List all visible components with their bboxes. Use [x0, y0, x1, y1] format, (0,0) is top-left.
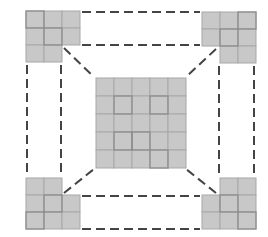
grid-cell [150, 78, 168, 96]
block-cell [238, 178, 256, 195]
grid-cell [168, 96, 186, 114]
grid-cell [96, 114, 114, 132]
block-cell [44, 195, 62, 212]
block-cell [202, 12, 220, 29]
block-cell [44, 178, 62, 195]
grid-cell [96, 132, 114, 150]
corner-block-top-left [26, 11, 80, 62]
grid-cell [132, 132, 150, 150]
grid-cell [150, 96, 168, 114]
corner-block-bottom-right [202, 178, 256, 229]
grid-cell [96, 150, 114, 168]
dashed-line-diag-bottom-left [64, 169, 94, 193]
grid-diagram [0, 0, 268, 237]
grid-cell [114, 96, 132, 114]
block-cell [44, 28, 62, 45]
block-cell [62, 11, 80, 28]
grid-cell [168, 150, 186, 168]
block-cell [62, 195, 80, 212]
block-cell [238, 29, 256, 46]
grid-cell [114, 132, 132, 150]
grid-cell [114, 150, 132, 168]
block-cell [44, 45, 62, 62]
block-cell [238, 12, 256, 29]
block-cell [220, 178, 238, 195]
grid-cell [132, 114, 150, 132]
block-cell [44, 11, 62, 28]
block-cell [202, 195, 220, 212]
block-cell [238, 212, 256, 229]
grid-cell [96, 96, 114, 114]
block-cell [62, 212, 80, 229]
block-cell [220, 46, 238, 63]
corner-block-bottom-left [26, 178, 80, 229]
block-cell [220, 212, 238, 229]
block-cell [26, 178, 44, 195]
block-cell [26, 45, 44, 62]
block-cell [44, 212, 62, 229]
grid-cell [114, 114, 132, 132]
block-cell [26, 28, 44, 45]
grid-cell [114, 78, 132, 96]
grid-cell [132, 150, 150, 168]
block-cell [62, 28, 80, 45]
block-cell [202, 212, 220, 229]
grid-cell [168, 114, 186, 132]
block-cell [220, 195, 238, 212]
block-cell [220, 29, 238, 46]
block-cell [238, 46, 256, 63]
block-cell [26, 11, 44, 28]
grid-cell [132, 78, 150, 96]
dashed-line-diag-top-right [186, 49, 216, 77]
grid-cell [168, 78, 186, 96]
dashed-line-diag-bottom-right [186, 169, 216, 193]
block-cell [26, 195, 44, 212]
grid-cell [150, 114, 168, 132]
block-cell [238, 195, 256, 212]
grid-cell [96, 78, 114, 96]
grid-cell [150, 150, 168, 168]
grid-cell [150, 132, 168, 150]
dashed-line-diag-top-left [64, 48, 94, 77]
block-cell [26, 212, 44, 229]
center-grid [96, 78, 186, 168]
block-cell [202, 29, 220, 46]
grid-cell [168, 132, 186, 150]
block-cell [220, 12, 238, 29]
grid-cell [132, 96, 150, 114]
